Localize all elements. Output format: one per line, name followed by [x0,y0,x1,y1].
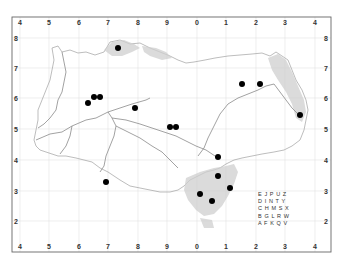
row-label-right: 5 [324,126,328,133]
row-label-right: 3 [324,188,328,195]
occurrence-dot [85,100,91,106]
occurrence-dot [215,154,221,160]
row-label-right: 7 [324,65,328,72]
distribution-map: 445566778899001122334488776655443322 E J… [0,0,338,259]
column-label-top: 1 [224,19,228,26]
occurrence-dot [132,105,138,111]
key-row: B G L R W [258,213,290,219]
column-label-bottom: 5 [47,243,51,250]
key-row: E J P U Z [258,191,287,197]
column-label-bottom: 3 [283,243,287,250]
occurrence-dot [197,191,203,197]
row-label-left: 8 [14,35,18,42]
column-label-top: 6 [77,19,81,26]
occurrence-dot [167,124,173,130]
occurrence-dot [209,198,215,204]
column-label-bottom: 9 [165,243,169,250]
column-label-top: 0 [195,19,199,26]
occurrence-dot [173,124,179,130]
row-label-left: 5 [14,126,18,133]
occurrence-dot [257,81,263,87]
occurrence-dot [103,179,109,185]
row-label-right: 4 [324,157,328,164]
occurrence-dot [227,185,233,191]
occurrence-dot [91,94,97,100]
row-label-right: 8 [324,35,328,42]
column-label-bottom: 2 [254,243,258,250]
row-label-left: 7 [14,65,18,72]
column-label-top: 4 [313,19,317,26]
occurrence-dot [297,112,303,118]
key-row: C H M S X [258,205,289,211]
column-label-top: 2 [254,19,258,26]
row-label-left: 2 [14,218,18,225]
occurrence-dot [97,94,103,100]
column-label-top: 3 [283,19,287,26]
column-label-top: 5 [47,19,51,26]
column-label-bottom: 7 [106,243,110,250]
column-label-bottom: 1 [224,243,228,250]
grid-letter-key: E J P U ZD I N T YC H M S XB G L R WA F … [258,191,290,226]
row-label-right: 2 [324,218,328,225]
column-label-top: 8 [136,19,140,26]
column-label-bottom: 8 [136,243,140,250]
occurrence-dot [239,81,245,87]
column-label-bottom: 4 [18,243,22,250]
occurrence-dot [115,45,121,51]
column-label-bottom: 0 [195,243,199,250]
row-label-left: 3 [14,188,18,195]
row-label-left: 6 [14,95,18,102]
coastline [34,40,308,192]
key-row: D I N T Y [258,198,286,204]
row-label-right: 6 [324,95,328,102]
key-row: A F K Q V [258,220,288,226]
column-label-bottom: 4 [313,243,317,250]
row-label-left: 4 [14,157,18,164]
column-label-bottom: 6 [77,243,81,250]
occurrence-dot [215,173,221,179]
column-label-top: 7 [106,19,110,26]
column-label-top: 9 [165,19,169,26]
column-label-top: 4 [18,19,22,26]
